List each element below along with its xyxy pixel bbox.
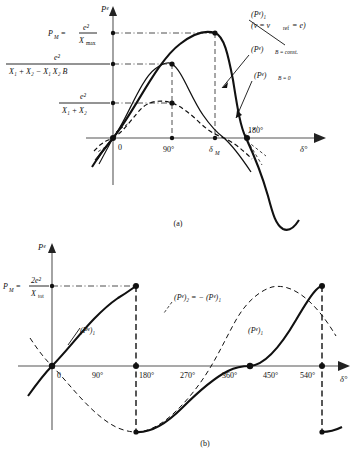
panel-b-point-180deg xyxy=(133,363,139,369)
panel-a-point-level1-axis xyxy=(111,31,115,35)
panel-b-annotation-p1-second: (Pᵉ)₁ xyxy=(248,326,263,335)
panel-a-point-peak-p1 xyxy=(212,30,217,35)
panel-b-xtick-90: 90° xyxy=(92,371,103,380)
panel-a: Pᵉ δ° P M = e² X max e² X₁ + X₂ − X₁ X₂ … xyxy=(6,4,326,230)
panel-a-xtick-180: 180° xyxy=(248,126,263,135)
panel-b-point-540deg xyxy=(319,363,325,369)
panel-a-annotation-bzero: (Pᵉ) B = 0 xyxy=(236,71,291,118)
panel-b-point-trough-540 xyxy=(319,429,324,434)
panel-a-curve-b-const xyxy=(97,63,251,172)
panel-a-point-180deg xyxy=(244,135,250,141)
panel-a-level-1-lead: P xyxy=(47,29,53,38)
panel-b-point-trough-180 xyxy=(133,429,138,434)
panel-a-x-axis-arrow xyxy=(314,133,326,143)
panel-b-xtick-450: 450° xyxy=(263,371,278,380)
panel-a-level-1-denominator-sub: max xyxy=(86,40,96,46)
panel-a-annotation-bconst-sub: B = const. xyxy=(275,49,298,55)
panel-b-point-360deg xyxy=(247,363,253,369)
panel-b-y-axis-arrow xyxy=(48,243,56,253)
panel-a-level-2-denominator: X₁ + X₂ − X₁ X₂ B xyxy=(8,67,67,76)
panel-a-leader-bconst xyxy=(222,55,249,88)
panel-b-annotation-p1-first-label: (Pᵉ)₁ xyxy=(80,326,95,335)
figure-container: Pᵉ δ° P M = e² X max e² X₁ + X₂ − X₁ X₂ … xyxy=(0,0,361,452)
panel-a-annotation-bconst-main: (Pᵉ) xyxy=(251,45,264,54)
panel-b-xtick-180: 180° xyxy=(139,371,154,380)
panel-a-annotation-p1-condition: (v = v ref = e) xyxy=(251,21,306,31)
panel-a-level-1-numerator: e² xyxy=(83,23,90,32)
panel-b-leader-p2 xyxy=(164,302,172,313)
panel-a-level-3-denominator: X₁ + X₂ xyxy=(61,106,87,115)
panel-a-point-origin xyxy=(110,135,116,141)
figure-svg: Pᵉ δ° P M = e² X max e² X₁ + X₂ − X₁ X₂ … xyxy=(0,0,361,452)
panel-a-point-delta-m xyxy=(213,136,217,140)
panel-b-level-eq: = xyxy=(16,282,21,291)
panel-b-curve-p1-seg2 xyxy=(136,286,322,432)
panel-a-point-peak-bconst xyxy=(169,61,174,66)
panel-b-xtick-540: 540° xyxy=(300,371,315,380)
panel-b-x-axis-label: δ° xyxy=(340,374,348,384)
panel-a-xtick-90: 90° xyxy=(163,145,174,154)
panel-b-level-label: P M = 2e² X tot xyxy=(2,276,49,299)
panel-b-caption: (b) xyxy=(200,439,210,448)
panel-b-annotation-p1-second-label: (Pᵉ)₁ xyxy=(248,326,263,335)
panel-a-curve-p1 xyxy=(92,32,299,230)
panel-a-annotation-p1-main: (Pᵉ)₁ xyxy=(251,10,266,19)
panel-b-level-numerator: 2e² xyxy=(31,276,42,285)
panel-b-xtick-270: 270° xyxy=(180,371,195,380)
panel-a-point-level2-axis xyxy=(111,62,115,66)
panel-a-level-label-1: P M = e² X max xyxy=(47,23,96,46)
panel-b-y-axis-label: Pᵉ xyxy=(37,242,46,252)
panel-a-origin-tangent-2 xyxy=(99,138,113,164)
panel-a-annotation-bzero-main: (Pᵉ) xyxy=(254,71,267,80)
panel-a-xtick-delta-sub: M xyxy=(214,150,220,156)
panel-b-point-peak-540 xyxy=(319,283,325,289)
panel-b-level-lead: P xyxy=(2,282,8,291)
panel-a-level-3-numerator: e² xyxy=(80,92,87,101)
panel-b-xtick-0: 0 xyxy=(57,371,61,380)
panel-a-level-label-2: e² X₁ + X₂ − X₁ X₂ B xyxy=(8,53,67,76)
panel-b-xtick-360: 360° xyxy=(222,371,237,380)
panel-a-level-1-denominator: X xyxy=(78,36,85,45)
panel-a-annotation-p1-sub3: = e) xyxy=(292,21,306,30)
panel-a-point-peak-bzero xyxy=(169,100,174,105)
panel-a-level-label-3: e² X₁ + X₂ xyxy=(61,92,87,115)
panel-b-level-denominator: X xyxy=(30,289,37,298)
panel-a-annotation-bzero-sub: B = 0 xyxy=(278,75,291,81)
panel-a-level-2-numerator: e² xyxy=(54,53,61,62)
panel-b-curve-p1-seg1 xyxy=(28,286,136,396)
panel-b: Pᵉ δ° P M = 2e² X tot xyxy=(2,242,350,448)
panel-a-annotation-p1-sub2: ref xyxy=(283,25,289,31)
panel-b-curve-p2 xyxy=(30,286,336,432)
panel-a-xtick-0: 0 xyxy=(118,143,122,152)
panel-b-level-denominator-sub: tot xyxy=(38,293,44,299)
panel-a-xtick-delta-symbol: δ xyxy=(209,145,213,154)
panel-a-xtick-delta-m: δ M xyxy=(209,145,220,156)
panel-a-point-90deg xyxy=(170,136,174,140)
panel-a-point-level3-axis xyxy=(111,101,115,105)
panel-a-origin-tangent-1 xyxy=(95,138,113,160)
panel-a-x-axis-label: δ° xyxy=(300,144,308,154)
panel-b-level-lead-sub: M xyxy=(8,287,14,293)
panel-a-y-axis-arrow xyxy=(109,6,117,16)
panel-b-annotation-p2-label: (Pᵉ)₂ = − (Pᵉ)₁ xyxy=(174,293,221,302)
panel-a-level-1-lead-sub: M xyxy=(53,34,59,40)
panel-b-point-peak-180 xyxy=(133,283,139,289)
panel-a-caption: (a) xyxy=(174,219,183,228)
panel-b-annotation-p2: (Pᵉ)₂ = − (Pᵉ)₁ xyxy=(164,293,221,313)
panel-a-annotation-p1-sub: (v = v xyxy=(251,21,271,30)
panel-b-point-origin xyxy=(49,363,55,369)
panel-a-y-axis-label: Pᵉ xyxy=(100,4,109,14)
panel-a-annotation-p1: (Pᵉ)₁ (v = v ref = e) xyxy=(249,10,306,45)
panel-b-x-axis-arrow xyxy=(338,361,350,371)
panel-a-level-1-eq: = xyxy=(61,29,66,38)
panel-b-curve-p1-tail xyxy=(322,427,342,432)
panel-b-point-level-axis xyxy=(50,284,54,288)
